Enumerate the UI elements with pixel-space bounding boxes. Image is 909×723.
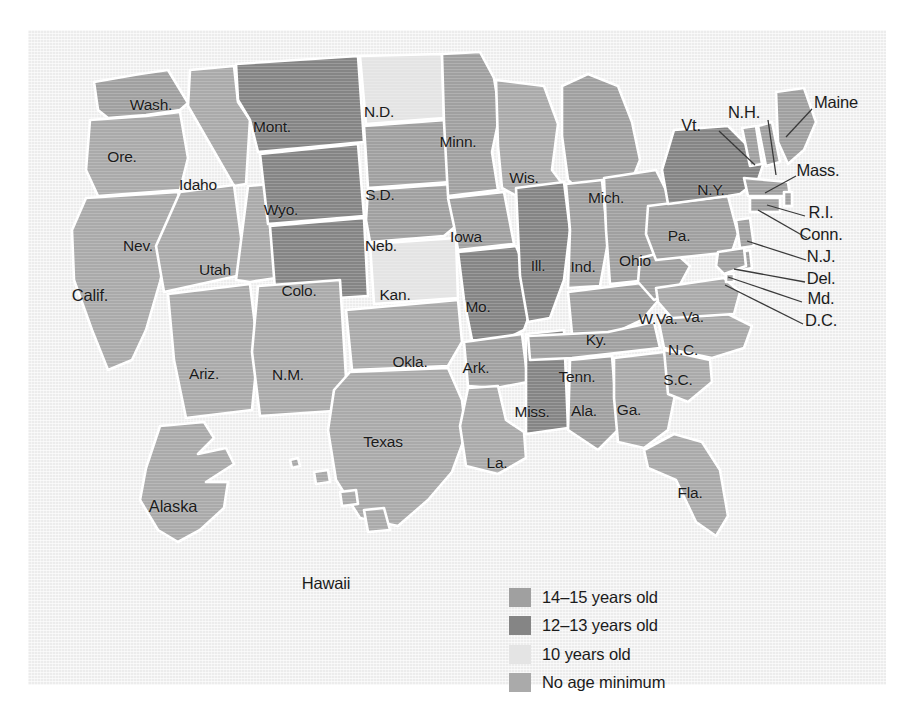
us-map-graphic	[28, 30, 886, 685]
legend-swatch-10	[509, 645, 531, 664]
legend-label-none: No age minimum	[542, 673, 665, 692]
legend-label-14-15: 14–15 years old	[542, 588, 658, 607]
paper-texture-overlay	[28, 30, 886, 685]
us-map-svg-container	[28, 30, 886, 685]
legend-swatch-14-15	[509, 588, 531, 607]
legend-swatch-12-13	[509, 616, 531, 635]
legend-item-10[interactable]: 10 years old	[509, 640, 739, 669]
paper-texture	[28, 30, 886, 685]
legend-swatch-none	[509, 673, 531, 692]
legend-label-12-13: 12–13 years old	[542, 616, 658, 635]
map-panel: Wash.Ore.Calif.IdahoNev.UtahAriz.Mont.Wy…	[28, 30, 886, 685]
map-legend: 14–15 years old12–13 years old10 years o…	[509, 583, 739, 697]
legend-label-10: 10 years old	[542, 645, 631, 664]
legend-item-14-15[interactable]: 14–15 years old	[509, 583, 739, 612]
legend-item-12-13[interactable]: 12–13 years old	[509, 612, 739, 641]
legend-item-none[interactable]: No age minimum	[509, 669, 739, 698]
